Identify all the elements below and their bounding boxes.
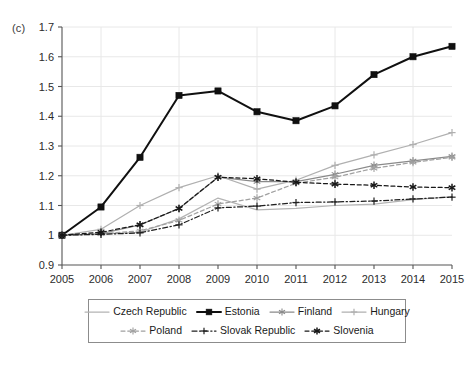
legend-key-poland: [120, 325, 146, 337]
legend-label-hungary: Hungary: [370, 306, 410, 317]
legend-entry-slovenia[interactable]: Slovenia: [304, 325, 373, 337]
legend-key-finland: [269, 306, 295, 318]
legend-entry-poland[interactable]: Poland: [120, 325, 182, 337]
svg-text:2006: 2006: [89, 273, 113, 285]
svg-text:1: 1: [48, 229, 54, 241]
figure-panel-c: (c) 0.911.11.21.31.41.51.61.7 2005200620…: [0, 0, 472, 365]
svg-text:2013: 2013: [362, 273, 386, 285]
legend-key-hungary: [341, 306, 367, 318]
legend-label-poland: Poland: [149, 325, 182, 336]
legend-entry-hungary[interactable]: Hungary: [341, 306, 410, 318]
legend-label-slovak-republic: Slovak Republic: [220, 325, 295, 336]
chart-legend: Czech Republic Estonia Finland Hungary P…: [88, 299, 406, 343]
svg-text:2008: 2008: [167, 273, 191, 285]
legend-entry-estonia[interactable]: Estonia: [196, 306, 260, 318]
svg-text:1.5: 1.5: [39, 81, 54, 93]
svg-text:2012: 2012: [323, 273, 347, 285]
legend-label-finland: Finland: [298, 306, 332, 317]
svg-text:2007: 2007: [128, 273, 152, 285]
legend-row-2: Poland Slovak Republic Slovenia: [93, 321, 401, 340]
legend-entry-finland[interactable]: Finland: [269, 306, 332, 318]
svg-text:0.9: 0.9: [39, 259, 54, 271]
x-axis-tick-labels: 2005200620072008200920102011201220132014…: [50, 273, 464, 285]
svg-text:1.1: 1.1: [39, 200, 54, 212]
svg-text:1.2: 1.2: [39, 170, 54, 182]
svg-text:1.7: 1.7: [39, 21, 54, 33]
svg-text:1.4: 1.4: [39, 110, 54, 122]
svg-text:2010: 2010: [245, 273, 269, 285]
legend-label-slovenia: Slovenia: [333, 325, 373, 336]
svg-text:2011: 2011: [284, 273, 308, 285]
svg-text:2015: 2015: [440, 273, 464, 285]
legend-label-czech-republic: Czech Republic: [113, 306, 187, 317]
legend-row-1: Czech Republic Estonia Finland Hungary: [93, 302, 401, 321]
y-axis-tick-labels: 0.911.11.21.31.41.51.61.7: [39, 21, 54, 271]
svg-text:1.6: 1.6: [39, 51, 54, 63]
legend-label-estonia: Estonia: [225, 306, 260, 317]
legend-key-slovenia: [304, 325, 330, 337]
legend-key-slovak-republic: [191, 325, 217, 337]
legend-entry-czech-republic[interactable]: Czech Republic: [84, 306, 187, 318]
svg-text:1.3: 1.3: [39, 140, 54, 152]
svg-text:2009: 2009: [206, 273, 230, 285]
legend-entry-slovak-republic[interactable]: Slovak Republic: [191, 325, 295, 337]
svg-text:2005: 2005: [50, 273, 74, 285]
legend-key-estonia: [196, 306, 222, 318]
svg-text:2014: 2014: [401, 273, 425, 285]
legend-key-czech-republic: [84, 306, 110, 318]
